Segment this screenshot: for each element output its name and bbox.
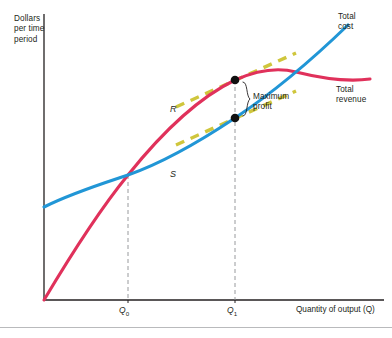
x-tick-label-q1: Q1 <box>227 305 237 317</box>
total-cost-label: Total cost <box>338 12 356 33</box>
x-axis-label: Quantity of output (Q) <box>296 305 375 314</box>
total-revenue-label: Total revenue <box>336 85 366 106</box>
maximum-profit-label: Maximum profit <box>253 92 289 113</box>
x-tick-label-q0-sub: 0 <box>126 310 129 317</box>
footer-divider <box>0 327 392 328</box>
revenue-tangency-point <box>231 76 240 85</box>
total-revenue-curve <box>44 70 370 300</box>
economics-profit-maximization-diagram: Dollars per time period Total cost Total… <box>0 0 392 338</box>
revenue-curve-symbol: R <box>170 104 177 114</box>
x-tick-label-q1-sub: 1 <box>234 310 237 317</box>
total-cost-curve <box>44 25 348 207</box>
cost-tangency-point <box>231 114 240 123</box>
x-tick-label-q0-text: Q <box>119 305 126 315</box>
x-tick-label-q1-text: Q <box>227 305 234 315</box>
diagram-canvas <box>0 0 392 338</box>
cost-curve-symbol: S <box>170 169 176 179</box>
y-axis-label: Dollars per time period <box>14 14 44 45</box>
x-tick-label-q0: Q0 <box>119 305 129 317</box>
